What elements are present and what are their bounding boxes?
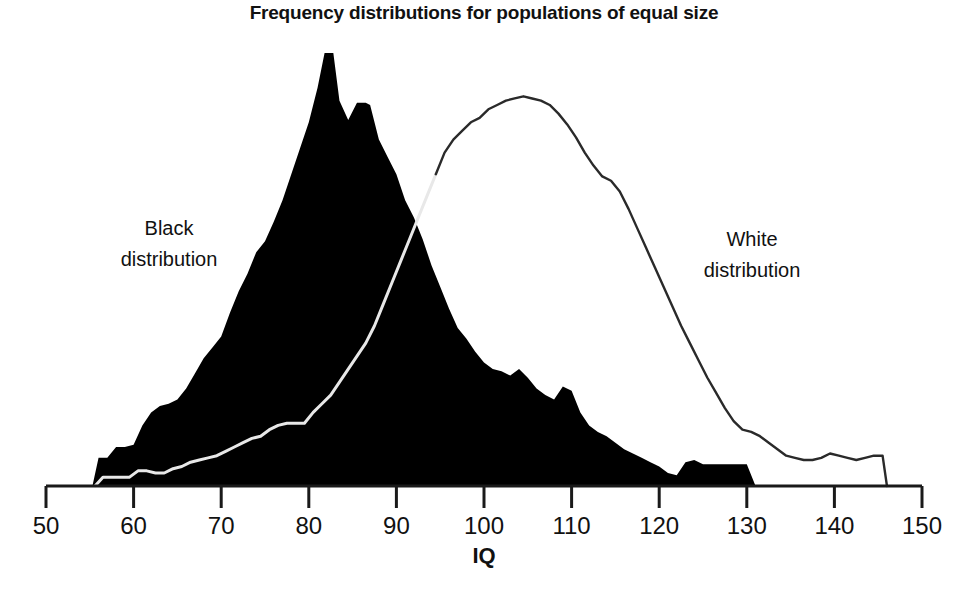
x-axis-tick-label: 60 bbox=[120, 512, 147, 539]
black-distribution-label-line2: distribution bbox=[121, 248, 218, 270]
black-distribution-label-line1: Black bbox=[145, 217, 195, 239]
chart-figure: Frequency distributions for populations … bbox=[0, 0, 968, 592]
x-axis-tick-label: 100 bbox=[464, 512, 504, 539]
x-axis-tick-label: 80 bbox=[295, 512, 322, 539]
white-distribution-label-line1: White bbox=[726, 228, 777, 250]
x-axis-tick-label: 130 bbox=[727, 512, 767, 539]
x-axis-tick-label: 90 bbox=[383, 512, 410, 539]
x-axis-tick-label: 140 bbox=[814, 512, 854, 539]
x-axis-ticks bbox=[46, 486, 922, 508]
x-axis-tick-label: 50 bbox=[33, 512, 60, 539]
x-axis-tick-label: 120 bbox=[639, 512, 679, 539]
x-axis-title: IQ bbox=[472, 543, 495, 568]
x-axis-tick-label: 150 bbox=[902, 512, 942, 539]
x-axis-tick-label: 110 bbox=[552, 512, 590, 539]
x-axis-tick-label: 70 bbox=[208, 512, 235, 539]
distribution-plot: 5060708090100110120130140150 IQ Black di… bbox=[0, 0, 968, 592]
x-axis-tick-labels: 5060708090100110120130140150 bbox=[33, 512, 942, 539]
white-distribution-label-line2: distribution bbox=[704, 259, 801, 281]
